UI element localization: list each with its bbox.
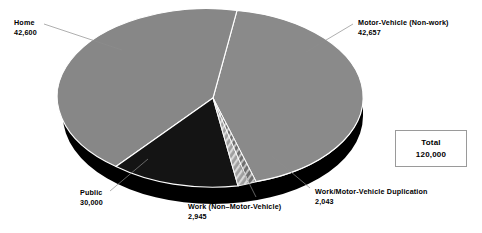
label-home-name: Home: [14, 18, 37, 28]
total-box-value: 120,000: [416, 149, 446, 161]
label-work-non-motor-vehicle-name: Work (Non–Motor-Vehicle): [188, 202, 281, 212]
label-motor-vehicle-name: Motor-Vehicle (Non-work): [358, 18, 449, 28]
label-work-non-motor-vehicle: Work (Non–Motor-Vehicle) 2,945: [188, 202, 281, 223]
label-public-name: Public: [80, 188, 103, 198]
label-home: Home 42,600: [14, 18, 37, 39]
label-motor-vehicle-value: 42,657: [358, 28, 449, 38]
label-home-value: 42,600: [14, 28, 37, 38]
pie-chart-figure: Home 42,600 Motor-Vehicle (Non-work) 42,…: [0, 0, 482, 233]
total-box: Total 120,000: [395, 130, 467, 167]
label-work-non-motor-vehicle-value: 2,945: [188, 212, 281, 222]
label-motor-vehicle: Motor-Vehicle (Non-work) 42,657: [358, 18, 449, 39]
pie-slices: [57, 9, 363, 188]
label-public-value: 30,000: [80, 198, 103, 208]
total-box-label: Total: [421, 137, 441, 149]
label-work-motor-vehicle-duplication: Work/Motor-Vehicle Duplication 2,043: [315, 187, 428, 208]
label-public: Public 30,000: [80, 188, 103, 209]
label-work-motor-vehicle-duplication-name: Work/Motor-Vehicle Duplication: [315, 187, 428, 197]
label-work-motor-vehicle-duplication-value: 2,043: [315, 197, 428, 207]
